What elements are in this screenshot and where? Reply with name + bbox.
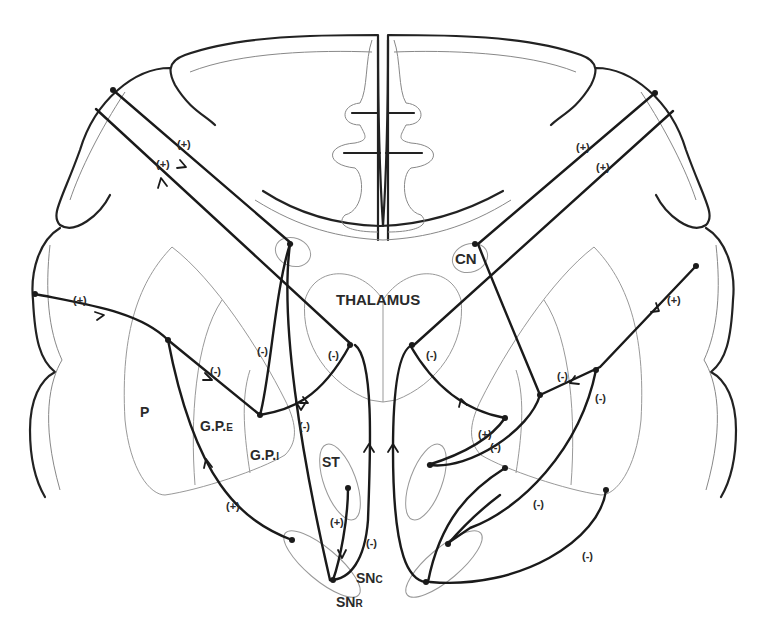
sign-label: (-) [257,345,268,357]
sign-label: (-) [299,420,310,432]
snr-label-sub: R [355,598,362,609]
gpi-label-main: G.P. [250,447,276,463]
sign-label: (+) [478,428,492,440]
snr-label: SNR [336,594,363,610]
putamen-label: P [140,404,149,420]
brain-outline [30,35,736,497]
sign-label: (+) [596,161,610,173]
sign-label: (-) [328,349,339,361]
sign-label: (+) [226,500,240,512]
sign-label: (-) [366,537,377,549]
sign-label: (+) [73,294,87,306]
gpi-label: G.P.I [250,447,279,463]
gpe-label-main: G.P. [200,418,226,434]
caudate-nucleus-label: CN [455,250,477,267]
sign-label: (-) [490,441,501,453]
sign-label: (+) [177,138,191,150]
snr-label-main: SN [336,594,355,610]
sign-label: (+) [576,141,590,153]
sign-label: (+) [156,158,170,170]
sign-label: (-) [595,392,606,404]
snc-label: SNC [356,570,383,586]
sign-label: (-) [533,498,544,510]
sign-label: (-) [210,365,221,377]
gpe-label: G.P.E [200,418,233,434]
sign-label: (-) [426,349,437,361]
snc-label-sub: C [375,574,382,585]
snc-label-main: SN [356,570,375,586]
sign-label: (+) [667,294,681,306]
gpi-label-sub: I [276,451,279,462]
gpe-label-sub: E [226,422,233,433]
sign-label: (+) [330,516,344,528]
basal-ganglia-diagram [0,0,766,633]
thalamus-label: THALAMUS [336,291,420,308]
subthalamic-label: ST [322,454,340,470]
sign-label: (-) [557,370,568,382]
sign-label: (-) [582,550,593,562]
